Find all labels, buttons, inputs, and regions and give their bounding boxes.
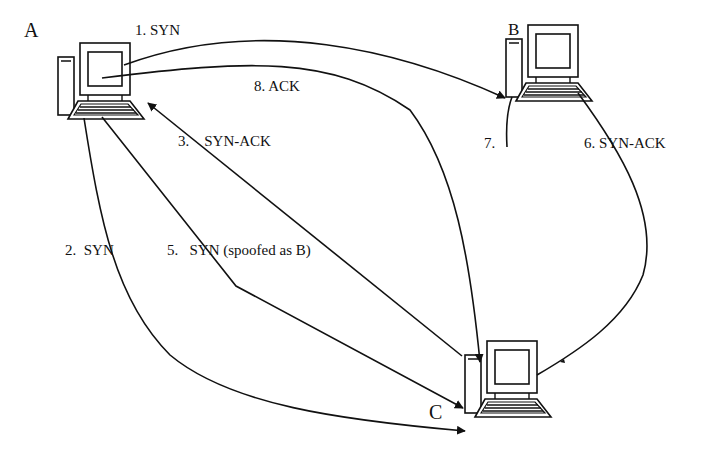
edge-label-5: 5. SYN (spoofed as B) [167,243,311,258]
edge-label-7: 7. [484,136,495,151]
computer-a-icon [58,43,144,119]
edge-label-1: 1. SYN [135,23,180,38]
node-label-a: A [24,20,38,40]
node-label-b: B [508,21,519,38]
edge-label-2: 2. SYN [65,243,114,258]
node-label-c: C [429,402,442,422]
edge-label-8: 8. ACK [254,79,300,94]
edge-label-6: 6. SYN-ACK [584,136,666,151]
edge-label-3: 3. SYN-ACK [178,134,271,149]
edge-7 [507,97,512,147]
edge-2-syn [84,118,465,431]
edge-5-syn-spoofed [102,117,463,408]
edge-8-ack [102,66,480,362]
computer-c-icon [465,341,551,417]
diagram-canvas [0,0,707,455]
